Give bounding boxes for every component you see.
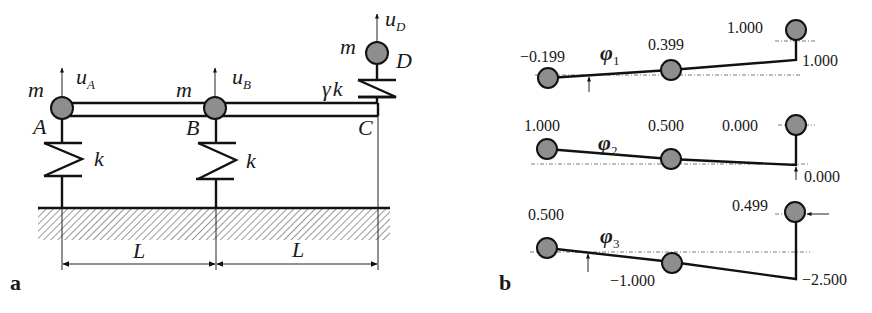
displacement-label: uD	[385, 6, 406, 34]
spring-stiffness-label: k	[246, 148, 257, 173]
mode-value: −0.199	[520, 48, 565, 65]
spring-stiffness-label: γk	[322, 76, 344, 101]
node-d: m uD D	[340, 6, 412, 73]
mode-value: 1.000	[524, 117, 560, 134]
mode-shape-3: φ3 0.500 −1.000 0.499 −2.500	[528, 197, 847, 289]
mode-value: 0.000	[722, 117, 758, 134]
mode-value: 0.500	[648, 117, 684, 134]
mass-label: m	[28, 77, 44, 102]
panel-label-b: b	[499, 270, 511, 295]
spring-stiffness-label: k	[94, 146, 105, 171]
mode-value: 1.000	[802, 52, 838, 69]
dimension-L-1: L	[63, 238, 215, 264]
panel-label-a: a	[10, 270, 21, 295]
mode-symbol: φ3	[600, 223, 619, 251]
panel-a: L L k k	[10, 6, 412, 295]
dimension-label: L	[291, 237, 304, 262]
mass-label: m	[176, 77, 192, 102]
diagram-canvas: L L k k	[0, 0, 872, 313]
mode-symbol: φ1	[600, 40, 619, 68]
panel-b: φ1 −0.199 0.399 1.000 1.000 φ2 1.000 0.5…	[499, 19, 847, 295]
spring-a: k	[44, 116, 105, 208]
mass-label: m	[340, 34, 356, 59]
mode-value: 0.399	[648, 36, 684, 53]
mode-shape-2: φ2 1.000 0.500 0.000 0.000	[524, 115, 840, 185]
mode-value: −2.500	[802, 271, 847, 288]
mode-symbol: φ2	[598, 130, 617, 158]
spring-cd: γk	[322, 65, 396, 103]
displacement-label: uA	[76, 64, 95, 92]
mode-shape-1: φ1 −0.199 0.399 1.000 1.000	[520, 19, 838, 92]
mode-value: 0.000	[804, 168, 840, 185]
mode-value: 1.000	[727, 19, 763, 36]
node-label: D	[395, 48, 412, 73]
node-label: B	[186, 115, 199, 140]
ground-support	[38, 208, 390, 240]
dimension-label: L	[132, 238, 145, 263]
node-label: A	[31, 114, 47, 139]
displacement-label: uB	[232, 64, 251, 92]
spring-b: k	[196, 116, 257, 208]
dimension-L-2: L	[217, 237, 377, 264]
mode-value: 0.500	[528, 206, 564, 223]
mode-value: −1.000	[610, 272, 655, 289]
mode-value: 0.499	[732, 197, 768, 214]
node-label-c: C	[358, 115, 373, 140]
